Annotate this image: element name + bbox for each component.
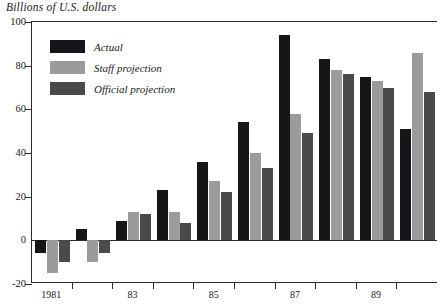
bar [400, 129, 411, 240]
bar [128, 212, 139, 240]
bar [279, 35, 290, 240]
bar [140, 214, 151, 240]
bar [319, 59, 330, 240]
bar [76, 229, 87, 240]
y-axis-label: 0 [21, 234, 26, 245]
bar [262, 168, 273, 240]
bar [343, 74, 354, 240]
chart-legend: ActualStaff projectionOfficial projectio… [50, 36, 175, 99]
legend-label: Actual [94, 41, 123, 53]
bar [238, 122, 249, 240]
bar [99, 240, 110, 253]
legend-label: Staff projection [94, 62, 162, 74]
bar [116, 221, 127, 241]
bar [250, 153, 261, 240]
bar [383, 88, 394, 241]
bar [47, 240, 58, 273]
bar [290, 114, 301, 241]
y-axis-label: 20 [16, 190, 27, 201]
bar-chart: Billions of U.S. dollars -20020406080100… [0, 0, 441, 307]
x-axis-label: 85 [209, 289, 219, 300]
bar [302, 133, 313, 240]
bar [372, 81, 383, 240]
bar [331, 70, 342, 240]
y-axis-label: 60 [16, 103, 27, 114]
x-axis-labels: 198183858789 [31, 289, 437, 305]
y-axis-tick [25, 22, 32, 23]
bar [35, 240, 46, 253]
legend-item: Actual [50, 36, 175, 57]
bar [221, 192, 232, 240]
bar [424, 92, 435, 240]
y-axis-tick [25, 66, 32, 67]
x-axis-label: 1981 [41, 289, 61, 300]
x-axis-label: 83 [128, 289, 138, 300]
legend-item: Official projection [50, 78, 175, 99]
y-axis-tick [25, 197, 32, 198]
bar [197, 162, 208, 241]
bar [209, 181, 220, 240]
bar [157, 190, 168, 240]
y-axis-labels: -20020406080100 [0, 21, 26, 283]
legend-label: Official projection [94, 83, 175, 95]
legend-swatch [50, 40, 85, 53]
bar [87, 240, 98, 262]
y-axis-label: 80 [16, 59, 27, 70]
y-axis-tick [25, 109, 32, 110]
legend-item: Staff projection [50, 57, 175, 78]
bar [180, 223, 191, 240]
y-axis-label: 100 [10, 16, 26, 27]
bar [59, 240, 70, 262]
bar [360, 77, 371, 241]
legend-swatch [50, 61, 85, 74]
x-axis-label: 87 [290, 289, 300, 300]
y-axis-label: 40 [16, 147, 27, 158]
legend-swatch [50, 82, 85, 95]
x-axis-label: 89 [371, 289, 381, 300]
y-axis-label: -20 [12, 278, 26, 289]
chart-title: Billions of U.S. dollars [6, 1, 117, 13]
bar [169, 212, 180, 240]
bar [412, 53, 423, 241]
y-axis-tick [25, 153, 32, 154]
